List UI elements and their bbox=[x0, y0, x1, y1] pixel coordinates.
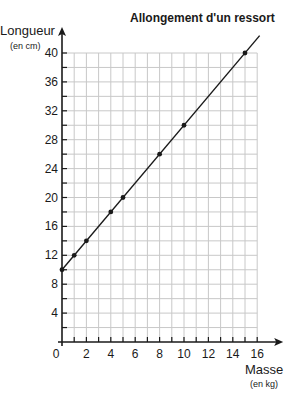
x-tick-label: 4 bbox=[107, 347, 114, 361]
y-tick-label: 4 bbox=[51, 306, 58, 320]
data-point bbox=[60, 267, 65, 272]
data-point bbox=[157, 152, 162, 157]
x-tick-label: 8 bbox=[156, 347, 163, 361]
chart-plot: 0246810121416481216202428323640 bbox=[0, 0, 301, 394]
grid bbox=[62, 53, 257, 342]
y-tick-label: 20 bbox=[45, 191, 59, 205]
y-tick-label: 24 bbox=[45, 162, 59, 176]
x-tick-label: 0 bbox=[53, 347, 60, 361]
y-tick-label: 8 bbox=[51, 277, 58, 291]
x-tick-label: 6 bbox=[132, 347, 139, 361]
x-tick-label: 12 bbox=[202, 347, 216, 361]
y-tick-label: 36 bbox=[45, 75, 59, 89]
y-tick-label: 16 bbox=[45, 219, 59, 233]
data-point bbox=[182, 123, 187, 128]
x-tick-label: 10 bbox=[177, 347, 191, 361]
x-tick-label: 14 bbox=[226, 347, 240, 361]
data-point bbox=[72, 253, 77, 258]
y-tick-label: 40 bbox=[45, 46, 59, 60]
x-tick-label: 2 bbox=[83, 347, 90, 361]
data-point bbox=[84, 238, 89, 243]
data-point bbox=[121, 195, 126, 200]
tick-labels: 0246810121416481216202428323640 bbox=[45, 46, 265, 361]
y-tick-label: 32 bbox=[45, 104, 59, 118]
y-tick-label: 28 bbox=[45, 133, 59, 147]
data-point bbox=[243, 51, 248, 56]
x-tick-label: 16 bbox=[251, 347, 265, 361]
y-tick-label: 12 bbox=[45, 248, 59, 262]
data-point bbox=[108, 210, 113, 215]
